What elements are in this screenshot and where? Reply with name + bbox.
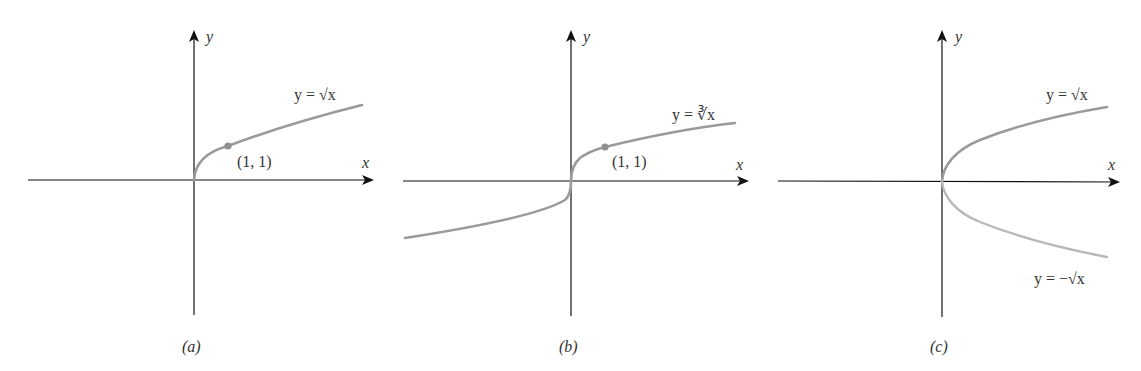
caption-c: (c) <box>930 338 948 356</box>
x-axis-label: x <box>361 154 369 171</box>
neg-sqrt-curve-bottom <box>942 181 1107 257</box>
figure-canvas: y x y = √x (1, 1) (a) y x y = ∛x (1, 1) … <box>0 0 1141 371</box>
panel-a: y x y = √x (1, 1) (a) <box>28 28 372 356</box>
point-1-1 <box>601 143 608 150</box>
caption-a: (a) <box>182 338 201 356</box>
x-axis-label: x <box>1107 156 1115 173</box>
panel-c: y x y = √x y = −√x (c) <box>778 28 1118 356</box>
sqrt-curve <box>194 105 362 180</box>
caption-b: (b) <box>559 338 578 356</box>
panel-b: y x y = ∛x (1, 1) (b) <box>403 28 747 356</box>
curve-label: y = ∛x <box>672 105 715 124</box>
y-axis-label: y <box>581 28 591 46</box>
point-1-1 <box>224 142 231 149</box>
point-label: (1, 1) <box>237 153 272 171</box>
y-axis-label: y <box>953 28 963 46</box>
sqrt-curve-top <box>942 107 1107 181</box>
curve-label: y = √x <box>294 86 336 104</box>
y-axis-label: y <box>204 28 214 46</box>
curve-label-bottom: y = −√x <box>1034 270 1085 288</box>
x-axis-label: x <box>735 156 743 173</box>
curve-label-top: y = √x <box>1046 86 1088 104</box>
point-label: (1, 1) <box>612 153 647 171</box>
x-axis <box>778 181 1118 182</box>
